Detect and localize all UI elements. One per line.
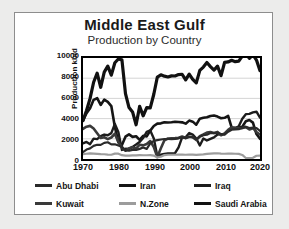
x-tick-1970: 1970 xyxy=(63,162,103,172)
chart-legend: Abu Dhabi Iran Iraq Kuwait N.Z xyxy=(24,178,269,210)
legend-label: Abu Dhabi xyxy=(56,181,99,191)
y-tick-6000: 6000 xyxy=(35,93,79,102)
y-tick-10000: 10000 xyxy=(35,51,79,60)
title-block: Middle East Gulf Production by Country xyxy=(15,16,274,47)
legend-label: Kuwait xyxy=(56,199,84,209)
y-tick-2000: 2000 xyxy=(35,135,79,144)
chart-plot-svg xyxy=(83,58,260,159)
legend-swatch-icon xyxy=(194,184,211,187)
legend-row: Abu Dhabi Iran Iraq xyxy=(24,178,269,193)
x-tick-1980: 1980 xyxy=(99,162,139,172)
legend-item-abu-dhabi[interactable]: Abu Dhabi xyxy=(35,178,99,193)
legend-label: Iran xyxy=(140,181,156,191)
plot-wrap: Production kb/d 10000 8000 6000 4000 200… xyxy=(81,56,262,161)
legend-item-iran[interactable]: Iran xyxy=(119,178,156,193)
legend-swatch-icon xyxy=(194,202,211,205)
series-line-n-zone xyxy=(83,153,260,158)
y-tick-4000: 4000 xyxy=(35,114,79,123)
legend-swatch-icon xyxy=(119,184,136,187)
legend-swatch-icon xyxy=(35,202,52,205)
series-line-saudi-arabia xyxy=(83,58,260,125)
legend-label: Iraq xyxy=(215,181,231,191)
chart-page: Middle East Gulf Production by Country P… xyxy=(0,0,289,229)
chart-subtitle: Production by Country xyxy=(15,33,274,47)
chart-card: Middle East Gulf Production by Country P… xyxy=(14,12,273,215)
legend-item-kuwait[interactable]: Kuwait xyxy=(35,196,84,211)
legend-item-iraq[interactable]: Iraq xyxy=(194,178,231,193)
legend-swatch-icon xyxy=(35,184,52,187)
x-tick-1990: 1990 xyxy=(135,162,175,172)
legend-item-saudi-arabia[interactable]: Saudi Arabia xyxy=(194,196,267,211)
plot-area xyxy=(81,56,262,161)
legend-swatch-icon xyxy=(119,202,136,205)
page-title: Middle East Gulf xyxy=(15,16,274,33)
legend-label: Saudi Arabia xyxy=(215,199,267,209)
y-tick-8000: 8000 xyxy=(35,72,79,81)
legend-row: Kuwait N.Zone Saudi Arabia xyxy=(24,196,269,211)
legend-item-n-zone[interactable]: N.Zone xyxy=(119,196,169,211)
x-tick-2000: 2000 xyxy=(170,162,210,172)
legend-label: N.Zone xyxy=(140,199,169,209)
x-tick-2020: 2020 xyxy=(240,162,280,172)
